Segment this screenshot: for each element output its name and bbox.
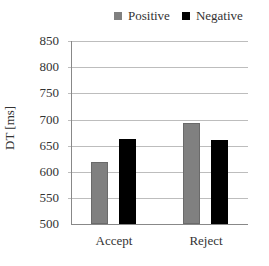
gridline-700	[68, 120, 248, 121]
y-tick-700: 700	[19, 112, 59, 128]
legend-label-negative: Negative	[196, 8, 243, 24]
y-tick-500: 500	[19, 216, 59, 232]
x-axis	[71, 224, 248, 225]
gridline-800	[68, 67, 248, 68]
chart-legend: Positive Negative	[114, 8, 255, 24]
gridline-850	[68, 41, 248, 42]
y-tick-550: 550	[19, 190, 59, 206]
y-axis	[71, 41, 72, 225]
gridline-750	[68, 93, 248, 94]
negative-swatch-icon	[182, 12, 190, 20]
y-tick-800: 800	[19, 59, 59, 75]
positive-swatch-icon	[114, 12, 122, 20]
y-tick-750: 750	[19, 85, 59, 101]
legend-label-positive: Positive	[128, 8, 170, 24]
y-tick-650: 650	[19, 138, 59, 154]
legend-item-negative: Negative	[182, 8, 243, 24]
y-tick-600: 600	[19, 164, 59, 180]
bar-reject-negative	[211, 140, 228, 224]
y-tick-850: 850	[19, 33, 59, 49]
y-axis-label: DT [ms]	[2, 106, 18, 150]
bar-accept-positive	[91, 162, 108, 224]
x-tick-accept: Accept	[74, 233, 154, 249]
bar-reject-positive	[183, 123, 200, 224]
legend-item-positive: Positive	[114, 8, 170, 24]
bar-accept-negative	[119, 139, 136, 224]
x-tick-reject: Reject	[166, 233, 246, 249]
